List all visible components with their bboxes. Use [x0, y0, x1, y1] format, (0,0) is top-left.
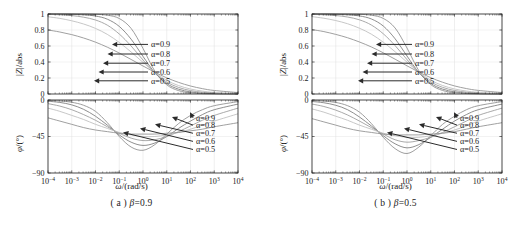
magnitude-ytick-label: 0.2: [35, 74, 45, 83]
panel-a-caption: ( a ) β=0.9: [0, 198, 263, 208]
annotation-arrow-head: [155, 123, 161, 128]
annotation-arrow-head: [376, 42, 381, 47]
magnitude-ytick-label: 0.4: [299, 58, 309, 67]
panel-b-caption-index: ( b ): [374, 198, 391, 208]
magnitude-ytick-label: 0.6: [299, 42, 309, 51]
annotation-label-08: α=0.8: [151, 50, 170, 59]
magnitude-ytick-label: 1: [305, 10, 309, 19]
annotation-label-05: α=0.5: [196, 145, 215, 154]
panel-a-magnitude-ylabel: |Z|/abs: [14, 53, 24, 76]
tick-labels: 00.20.40.60.810−45−9010−410−310−210−1100…: [296, 10, 508, 186]
annotation-arrow-head: [99, 69, 104, 74]
annotation-arrow-line: [424, 126, 457, 134]
panel-a-plot-area: 00.20.40.60.810−45−9010−410−310−210−1100…: [0, 0, 263, 231]
magnitude-ytick-label: 0.2: [299, 74, 309, 83]
annotation-label-05: α=0.5: [460, 145, 479, 154]
annotation-label-05: α=0.5: [415, 77, 434, 86]
phase-ytick-label: −45: [32, 132, 45, 141]
annotation-arrow-head: [372, 51, 377, 56]
magnitude-ytick-label: 0.4: [35, 58, 45, 67]
annotation-label-07: α=0.7: [151, 59, 170, 68]
annotation-label-05: α=0.5: [151, 77, 170, 86]
magnitude-ytick-label: 0.8: [35, 26, 45, 35]
panel-b-phase-ylabel: φ/(°): [278, 135, 288, 152]
annotation-arrow-head: [112, 42, 117, 47]
panel-a-xlabel: ω/(rad/s): [0, 181, 263, 191]
annotation-arrow-head: [358, 78, 363, 83]
annotation-arrow-head: [94, 78, 99, 83]
magnitude-ytick-label: 0.8: [299, 26, 309, 35]
annotation-label-06: α=0.6: [415, 68, 434, 77]
annotation-arrow-head: [108, 51, 113, 56]
panel-b: 00.20.40.60.810−45−9010−410−310−210−1100…: [264, 0, 527, 231]
magnitude-ytick-label: 1: [41, 10, 45, 19]
panel-b-plot-area: 00.20.40.60.810−45−9010−410−310−210−1100…: [264, 0, 527, 231]
panel-b-xlabel: ω/(rad/s): [264, 181, 527, 191]
annotation-label-09: α=0.9: [151, 40, 170, 49]
panel-a-caption-index: ( a ): [111, 198, 127, 208]
annotation-arrow-head: [419, 123, 425, 128]
annotation-arrow-head: [363, 69, 368, 74]
annotation-label-08: α=0.8: [415, 50, 434, 59]
panel-a: 00.20.40.60.810−45−9010−410−310−210−1100…: [0, 0, 263, 231]
annotation-arrow-head: [367, 61, 372, 66]
magnitude-ytick-label: 0.6: [35, 42, 45, 51]
panel-b-magnitude-ylabel: |Z|/abs: [278, 53, 288, 76]
phase-ytick-label: −45: [296, 132, 309, 141]
phase-ytick-label: 0: [305, 96, 309, 105]
annotation-label-06: α=0.6: [151, 68, 170, 77]
phase-ytick-label: 0: [41, 96, 45, 105]
annotation-arrow-head: [103, 61, 108, 66]
panel-b-caption-eq: =0.5: [399, 198, 417, 208]
annotation-label-07: α=0.7: [415, 59, 434, 68]
annotation-label-09: α=0.9: [415, 40, 434, 49]
panel-b-caption: ( b ) β=0.5: [264, 198, 527, 208]
panel-a-phase-ylabel: φ/(°): [14, 135, 24, 152]
figure-bode-plots: 00.20.40.60.810−45−9010−410−310−210−1100…: [0, 0, 527, 231]
panel-a-caption-eq: =0.9: [134, 198, 152, 208]
tick-labels: 00.20.40.60.810−45−9010−410−310−210−1100…: [32, 10, 244, 186]
